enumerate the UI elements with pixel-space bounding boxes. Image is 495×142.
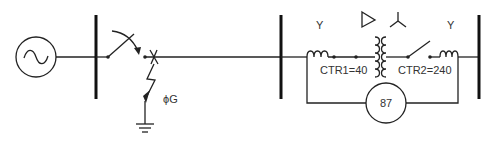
ct2-ratio-label: CTR2=240 [398,64,452,76]
delta-icon [362,12,375,27]
relay-label: 87 [380,97,392,109]
ct1-coil-icon [307,51,328,57]
single-line-diagram: ϕG Y CTR1=40 Y CTR2=240 87 [0,0,495,142]
breaker-switch [106,31,147,59]
ct2-coil-icon [440,51,458,57]
lightning-bolt-icon [147,64,155,96]
ct2-connection-label: Y [447,19,455,31]
ct1-connection-label: Y [316,19,324,31]
ct1-ratio-label: CTR1=40 [320,64,367,76]
wye-icon [390,12,406,27]
fault-label: ϕG [163,93,178,105]
fault-symbol [136,50,158,132]
sine-wave-icon [24,50,48,63]
secondary-switch [406,41,432,59]
generator [16,37,56,77]
